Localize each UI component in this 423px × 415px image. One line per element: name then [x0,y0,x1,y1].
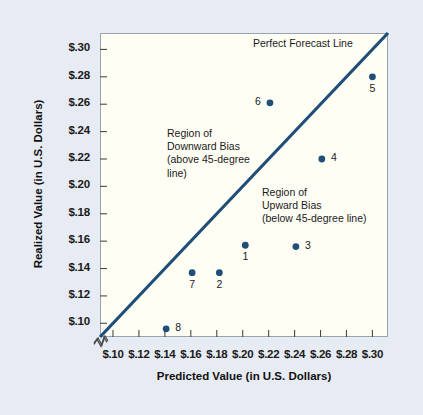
data-point-label-7: 7 [184,278,200,290]
data-point-label-2: 2 [211,278,227,290]
data-point-label-8: 8 [170,321,186,333]
y-tick-label: $.28 [48,69,90,81]
data-point-label-1: 1 [237,250,253,262]
y-tick-label: $.22 [48,151,90,163]
y-tick-label: $.18 [48,206,90,218]
perfect-forecast-line-label: Perfect Forecast Line [253,37,353,49]
x-tick-label: $.30 [355,348,389,360]
y-tick-label: $.20 [48,178,90,190]
y-tick-label: $.10 [48,315,90,327]
data-point-4 [318,156,325,163]
y-tick-label: $.24 [48,124,90,136]
data-point-label-3: 3 [300,239,316,251]
data-point-8 [163,325,170,332]
data-point-3 [292,243,299,250]
y-axis-title: Realized Value (in U.S. Dollars) [32,84,44,284]
upward-bias-annotation: Region of Upward Bias (below 45-degree l… [262,186,366,226]
downward-bias-annotation: Region of Downward Bias (above 45-degree… [167,127,250,180]
x-axis-title: Predicted Value (in U.S. Dollars) [100,370,388,382]
data-point-label-5: 5 [364,82,380,94]
y-tick-label: $.30 [48,41,90,53]
data-point-6 [267,99,274,106]
y-tick-label: $.14 [48,261,90,273]
data-point-7 [189,269,196,276]
chart-figure: $.10$.12$.14$.16$.18$.20$.22$.24$.26$.28… [0,0,423,415]
data-point-label-6: 6 [250,95,266,107]
y-tick-label: $.16 [48,233,90,245]
y-tick-label: $.26 [48,96,90,108]
y-tick-label: $.12 [48,288,90,300]
data-point-2 [216,269,223,276]
perfect-forecast-line [100,33,388,337]
data-point-5 [369,73,376,80]
data-point-1 [242,242,249,249]
data-point-label-4: 4 [326,151,342,163]
